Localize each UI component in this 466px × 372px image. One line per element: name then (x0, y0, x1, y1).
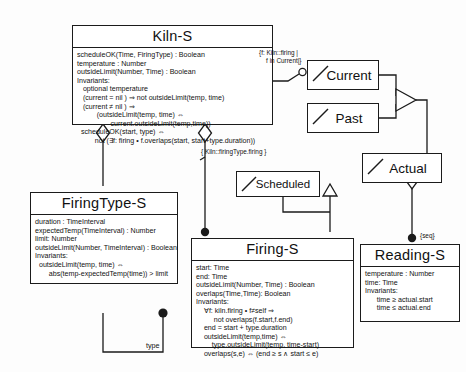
dot-firingtype-firing (158, 308, 167, 317)
state-box-past-label: Past (323, 111, 362, 126)
edge-kiln-current (273, 74, 299, 81)
class-reading-s-body: temperature : Number time: Time Invarian… (361, 267, 459, 316)
dot-actual-reading (408, 234, 416, 242)
edge-scheduled-group (283, 196, 330, 212)
triangle-firing-gen (323, 184, 337, 196)
uml-class-diagram: Kiln-S scheduleOK(Time, FiringType) : Bo… (0, 0, 466, 372)
annotation-current-constraint: {f: Kiln::firing | f in Current|} (259, 49, 302, 64)
state-box-scheduled-label: Scheduled (246, 178, 310, 190)
annotation-seq-constraint: {seq} (420, 232, 435, 240)
circle-kiln-current (299, 68, 306, 75)
edge-current-tri (379, 75, 396, 96)
class-reading-s-title: Reading-S (361, 245, 459, 267)
annotation-firingtype-constraint: { Kiln::firingType.firing } (201, 148, 266, 156)
state-box-actual[interactable]: Actual (362, 153, 442, 183)
class-firingtype-s-body: duration : TimeInterval expectedTemp(Tim… (31, 215, 177, 281)
state-box-past[interactable]: Past (307, 103, 379, 133)
class-kiln-s-body: scheduleOK(Time, FiringType) : Boolean t… (73, 48, 272, 149)
annotation-type-role: type (146, 341, 160, 350)
class-firingtype-s-title: FiringType-S (31, 193, 177, 215)
edge-tri-actual (416, 100, 427, 153)
class-firing-s-body: start: Time end: Time outsideLimit(Numbe… (192, 261, 353, 362)
class-firing-s-title: Firing-S (192, 239, 353, 261)
state-box-current-label: Current (314, 68, 371, 83)
class-firing-s[interactable]: Firing-S start: Time end: Time outsideLi… (191, 238, 354, 348)
dot-kiln-firing (201, 228, 209, 236)
class-reading-s[interactable]: Reading-S temperature : Number time: Tim… (360, 244, 460, 322)
leader-firingtype-constraint (200, 157, 205, 160)
state-box-scheduled[interactable]: Scheduled (236, 171, 320, 197)
state-box-current[interactable]: Current (307, 60, 379, 90)
class-firingtype-s[interactable]: FiringType-S duration : TimeInterval exp… (30, 192, 178, 284)
class-kiln-s-title: Kiln-S (73, 26, 272, 48)
edge-past-tri (379, 104, 396, 118)
state-box-actual-label: Actual (377, 161, 427, 176)
triangle-generalization (396, 89, 416, 111)
class-kiln-s[interactable]: Kiln-S scheduleOK(Time, FiringType) : Bo… (72, 25, 273, 125)
